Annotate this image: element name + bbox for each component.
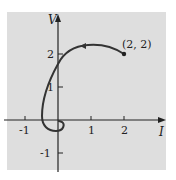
- x-tick-label: 2: [121, 124, 128, 137]
- y-tick-label: 2: [47, 48, 54, 61]
- x-tick-label: 1: [88, 124, 95, 137]
- x-tick-label: -1: [19, 124, 30, 137]
- start-point: [122, 52, 126, 56]
- point-annotation: (2, 2): [122, 38, 152, 51]
- plot-background: [7, 12, 166, 170]
- phase-plot: -1 1 2 2 1 -1 V I (2, 2): [0, 0, 176, 180]
- x-axis-label: I: [158, 125, 164, 139]
- y-tick-label: -1: [40, 147, 51, 160]
- y-axis-label: V: [48, 13, 58, 27]
